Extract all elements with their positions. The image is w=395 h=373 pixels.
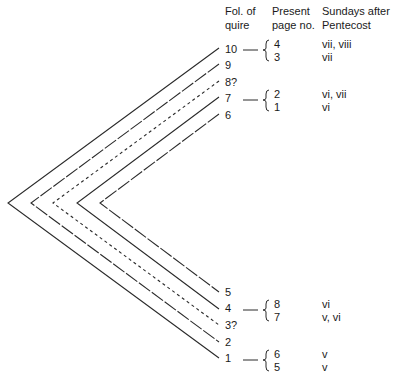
page-number: 5 <box>274 361 280 373</box>
folio-label-9: 9 <box>225 59 231 71</box>
folio-label-10: 10 <box>225 43 237 55</box>
sunday-range: vii, viii <box>322 38 351 50</box>
page-number: 6 <box>274 348 280 360</box>
folio-label-5: 5 <box>225 286 231 298</box>
sunday-range: vii <box>322 51 332 63</box>
sunday-range: vi <box>322 101 330 113</box>
brace-10 <box>263 40 269 61</box>
page-number: 4 <box>274 38 280 50</box>
folio-label-6: 6 <box>225 109 231 121</box>
header-sundays-line1: Sundays after <box>322 4 390 18</box>
header-page-line2: page no. <box>272 18 315 32</box>
folio-label-8: 8? <box>225 76 237 88</box>
page-number: 1 <box>274 101 280 113</box>
brace-1 <box>263 350 269 371</box>
sunday-range: v <box>322 348 328 360</box>
sunday-range: vi, vii <box>322 88 346 100</box>
page-number: 3 <box>274 51 280 63</box>
header-present-page: Present page no. <box>272 4 315 32</box>
folio-label-1: 1 <box>225 352 231 364</box>
brace-4 <box>263 300 269 321</box>
page-number: 2 <box>274 88 280 100</box>
folio-label-7: 7 <box>225 92 231 104</box>
bifolium-10-1 <box>8 48 219 358</box>
sunday-range: v <box>322 361 328 373</box>
page-number: 8 <box>274 298 280 310</box>
sunday-range: vi <box>322 298 330 310</box>
page-number: 7 <box>274 311 280 323</box>
bifolium-7-4 <box>77 97 219 309</box>
header-folio-line1: Fol. of <box>225 4 256 18</box>
header-sundays-after-pentecost: Sundays after Pentecost <box>322 4 390 32</box>
header-page-line1: Present <box>272 4 315 18</box>
folio-label-2: 2 <box>225 336 231 348</box>
header-folio-of-quire: Fol. of quire <box>225 4 256 32</box>
header-folio-line2: quire <box>225 18 256 32</box>
folio-label-3: 3? <box>225 319 237 331</box>
folio-label-4: 4 <box>225 302 231 314</box>
sunday-range: v, vi <box>322 311 341 323</box>
header-sundays-line2: Pentecost <box>322 18 390 32</box>
bifolium-6-5 <box>100 114 219 292</box>
bifolium-9-2 <box>31 64 219 342</box>
brace-7 <box>263 90 269 111</box>
